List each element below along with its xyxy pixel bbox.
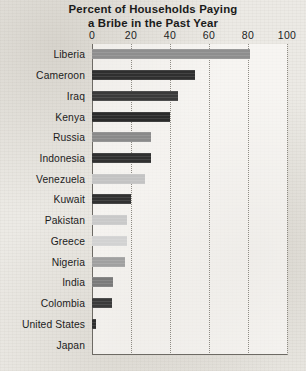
x-tick-label: 0 <box>89 29 95 41</box>
bar-fill <box>92 215 127 225</box>
bar-row: United States <box>0 314 306 335</box>
bar <box>92 215 127 225</box>
bar-fill <box>92 319 96 329</box>
chart-title: Percent of Households Paying a Bribe in … <box>0 3 306 30</box>
bar-row: Pakistan <box>0 210 306 231</box>
x-tick-label: 80 <box>242 29 254 41</box>
bar-row: Liberia <box>0 44 306 65</box>
bar <box>92 153 151 163</box>
bar-fill <box>92 153 151 163</box>
bar-fill <box>92 91 178 101</box>
bar <box>92 70 195 80</box>
category-label: United States <box>22 318 85 329</box>
bar-row: Iraq <box>0 85 306 106</box>
bar-row: Nigeria <box>0 251 306 272</box>
bar-fill <box>92 257 125 267</box>
bar-row: Russia <box>0 127 306 148</box>
category-label: India <box>62 277 85 288</box>
category-label: Kenya <box>55 111 85 122</box>
x-tick-label: 20 <box>125 29 137 41</box>
category-label: Russia <box>53 132 85 143</box>
bar <box>92 112 170 122</box>
bar <box>92 49 250 59</box>
chart-title-line-2: a Bribe in the Past Year <box>0 17 306 31</box>
category-label: Japan <box>56 339 85 350</box>
x-tick-label: 60 <box>203 29 215 41</box>
category-label: Pakistan <box>45 215 85 226</box>
category-label: Indonesia <box>39 153 85 164</box>
category-label: Greece <box>51 235 85 246</box>
bar-row: Japan <box>0 334 306 355</box>
category-label: Liberia <box>53 49 85 60</box>
category-label: Iraq <box>67 90 85 101</box>
bar-row: Venezuela <box>0 168 306 189</box>
chart-title-line-1: Percent of Households Paying <box>0 3 306 17</box>
category-label: Cameroon <box>36 70 85 81</box>
bar-fill <box>92 236 127 246</box>
bar <box>92 236 127 246</box>
bar <box>92 319 96 329</box>
bar-row: Colombia <box>0 293 306 314</box>
bar-row: Kenya <box>0 106 306 127</box>
x-tick-label: 100 <box>278 29 296 41</box>
bar-row: Indonesia <box>0 148 306 169</box>
bar <box>92 174 145 184</box>
x-tick-label: 40 <box>164 29 176 41</box>
category-label: Nigeria <box>52 256 85 267</box>
bar-chart-figure: Percent of Households Paying a Bribe in … <box>0 0 306 371</box>
bar-fill <box>92 49 250 59</box>
bar-fill <box>92 174 145 184</box>
bar-row: India <box>0 272 306 293</box>
bar <box>92 91 178 101</box>
bar-row: Kuwait <box>0 189 306 210</box>
bar <box>92 132 151 142</box>
category-label: Venezuela <box>36 173 85 184</box>
bar-fill <box>92 70 195 80</box>
bar <box>92 257 125 267</box>
category-label: Kuwait <box>53 194 85 205</box>
x-axis-tick-labels: 020406080100 <box>0 29 306 43</box>
bar <box>92 194 131 204</box>
bar-row: Cameroon <box>0 65 306 86</box>
bar <box>92 277 113 287</box>
bar-fill <box>92 112 170 122</box>
bar <box>92 298 112 308</box>
bar-fill <box>92 298 112 308</box>
bar-row: Greece <box>0 231 306 252</box>
category-label: Colombia <box>41 298 85 309</box>
bar-fill <box>92 132 151 142</box>
bar-fill <box>92 277 113 287</box>
bar-fill <box>92 194 131 204</box>
